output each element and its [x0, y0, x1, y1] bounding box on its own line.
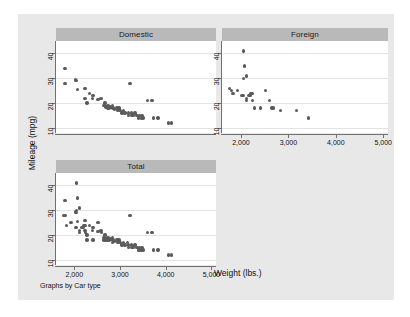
gridline-y-40	[56, 53, 216, 54]
data-point	[251, 99, 254, 102]
y-tick-label: 40	[213, 53, 220, 69]
data-point	[83, 97, 86, 100]
data-point	[69, 221, 72, 224]
panel-title-domestic: Domestic	[56, 28, 216, 41]
data-point	[253, 106, 256, 109]
panel-foreign: Foreign	[222, 28, 388, 133]
y-tick-label: 30	[47, 78, 54, 94]
gridline-y-20	[222, 103, 388, 104]
data-point	[75, 181, 78, 184]
data-point	[128, 214, 131, 217]
x-tick-label: 5,000	[203, 271, 221, 278]
data-point	[150, 99, 153, 102]
y-tick-label: 40	[47, 53, 54, 69]
data-point	[272, 106, 275, 109]
data-point	[264, 89, 267, 92]
gridline-y-30	[222, 78, 388, 79]
gridline-y-10	[56, 128, 216, 129]
x-tick-5000	[383, 135, 384, 138]
data-point	[156, 116, 159, 119]
data-point	[76, 196, 79, 199]
x-tick-label: 2,000	[232, 139, 250, 146]
data-point	[63, 82, 66, 85]
data-point	[236, 89, 239, 92]
data-point	[152, 248, 155, 251]
x-tick-label: 5,000	[374, 139, 392, 146]
plot-area-foreign	[222, 41, 388, 133]
data-point	[91, 226, 94, 229]
panel-title-total: Total	[56, 160, 216, 173]
stata-graph-screenshot: Domestic Foreign Total Mileage (mpg) Wei…	[0, 0, 410, 317]
y-axis-label: Mileage (mpg)	[27, 103, 37, 183]
data-point	[170, 121, 173, 124]
data-point	[76, 220, 79, 223]
y-tick-label: 30	[47, 210, 54, 226]
data-point	[63, 199, 66, 202]
data-point	[150, 231, 153, 234]
data-point	[146, 99, 149, 102]
gridline-y-30	[56, 78, 216, 79]
y-tick-label: 10	[213, 128, 220, 144]
x-tick-3000	[120, 267, 121, 270]
data-point	[128, 82, 131, 85]
data-point	[250, 92, 253, 95]
data-point	[78, 206, 81, 209]
plot-area-domestic	[56, 41, 216, 133]
data-point	[259, 106, 262, 109]
y-tick-label: 30	[213, 78, 220, 94]
data-point	[141, 248, 144, 251]
data-point	[152, 116, 155, 119]
gridline-y-30	[56, 210, 216, 211]
data-point	[85, 233, 88, 236]
gridline-y-10	[222, 128, 388, 129]
data-point	[85, 101, 88, 104]
data-point	[141, 116, 144, 119]
data-point	[63, 214, 66, 217]
data-point	[85, 238, 88, 241]
data-point	[146, 231, 149, 234]
data-point	[91, 238, 94, 241]
y-tick-label: 20	[213, 103, 220, 119]
gridline-y-40	[222, 53, 388, 54]
gridline-y-20	[56, 103, 216, 104]
data-point	[231, 92, 234, 95]
y-tick-label: 10	[47, 260, 54, 276]
data-point	[243, 64, 246, 67]
y-axis-line	[55, 41, 56, 133]
x-tick-label: 3,000	[111, 271, 129, 278]
data-point	[170, 253, 173, 256]
data-point	[242, 49, 245, 52]
x-tick-4000	[336, 135, 337, 138]
y-tick-label: 20	[47, 103, 54, 119]
plot-area-total	[56, 173, 216, 265]
data-point	[83, 87, 86, 90]
data-point	[245, 74, 248, 77]
data-point	[96, 221, 99, 224]
data-point	[83, 219, 86, 222]
panel-title-foreign: Foreign	[222, 28, 388, 41]
data-point	[99, 97, 102, 100]
gridline-y-20	[56, 235, 216, 236]
data-point	[279, 109, 282, 112]
y-axis-line	[55, 173, 56, 265]
data-point	[74, 79, 77, 82]
x-tick-2000	[74, 267, 75, 270]
x-axis-label: Weight (lbs.)	[214, 268, 262, 278]
gridline-y-10	[56, 260, 216, 261]
x-tick-3000	[288, 135, 289, 138]
data-point	[307, 116, 310, 119]
data-point	[65, 224, 68, 227]
x-axis-line	[221, 134, 388, 135]
x-tick-label: 4,000	[157, 271, 175, 278]
data-point	[78, 231, 81, 234]
x-tick-4000	[166, 267, 167, 270]
x-tick-5000	[211, 267, 212, 270]
data-point	[156, 248, 159, 251]
y-tick-label: 40	[47, 185, 54, 201]
data-point	[91, 94, 94, 97]
x-tick-label: 4,000	[327, 139, 345, 146]
y-tick-label: 10	[47, 128, 54, 144]
graph-region: Domestic Foreign Total Mileage (mpg) Wei…	[18, 14, 394, 300]
x-axis-line	[55, 134, 216, 135]
panel-total: Total	[56, 160, 216, 265]
